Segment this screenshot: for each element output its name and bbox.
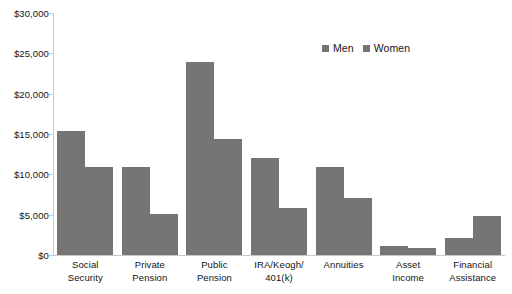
y-axis-tick-label: $5,000: [19, 209, 49, 220]
category-label: Public Pension: [182, 259, 247, 284]
bar-women: [344, 198, 372, 255]
bar-women: [85, 167, 113, 255]
bar-group: [122, 13, 178, 255]
bar-men: [251, 158, 279, 255]
bar-women: [408, 248, 436, 255]
chart-legend: MenWomen: [322, 42, 410, 54]
bar-women: [279, 208, 307, 255]
legend-item-women[interactable]: Women: [363, 42, 411, 54]
bar-men: [316, 167, 344, 255]
y-axis-tick-label: $15,000: [14, 129, 49, 140]
y-axis-tick: [49, 134, 53, 135]
legend-swatch-icon: [363, 45, 370, 52]
y-axis-line: [53, 13, 54, 256]
category-label: IRA/Keogh/ 401(k): [247, 259, 312, 284]
y-axis-tick: [49, 13, 53, 14]
y-axis-tick: [49, 255, 53, 256]
legend-label: Men: [333, 42, 354, 54]
bar-group: [445, 13, 501, 255]
y-axis-tick: [49, 53, 53, 54]
category-label: Financial Assistance: [440, 259, 505, 284]
bar-men: [445, 238, 473, 255]
bar-men: [122, 167, 150, 255]
legend-swatch-icon: [322, 45, 329, 52]
x-axis-line: [53, 255, 505, 256]
y-axis-tick: [49, 94, 53, 95]
y-axis-tick: [49, 174, 53, 175]
y-axis-tick-label: $30,000: [14, 8, 49, 19]
category-label: Social Security: [53, 259, 118, 284]
bar-women: [150, 214, 178, 255]
category-label: Annuities: [311, 259, 376, 272]
category-label: Private Pension: [118, 259, 183, 284]
legend-item-men[interactable]: Men: [322, 42, 354, 54]
bar-group: [251, 13, 307, 255]
bar-group: [186, 13, 242, 255]
legend-label: Women: [374, 42, 411, 54]
y-axis-tick: [49, 215, 53, 216]
bar-men: [186, 62, 214, 255]
y-axis-tick-label: $20,000: [14, 88, 49, 99]
y-axis-tick-label: $25,000: [14, 48, 49, 59]
bar-women: [214, 139, 242, 255]
y-axis-tick-label: $10,000: [14, 169, 49, 180]
bar-chart: $0$5,000$10,000$15,000$20,000$25,000$30,…: [0, 0, 512, 294]
bar-women: [473, 216, 501, 255]
y-axis-tick-label: $0: [38, 250, 49, 261]
bar-men: [380, 246, 408, 255]
bar-men: [57, 131, 85, 255]
category-label: Asset Income: [376, 259, 441, 284]
bar-group: [57, 13, 113, 255]
